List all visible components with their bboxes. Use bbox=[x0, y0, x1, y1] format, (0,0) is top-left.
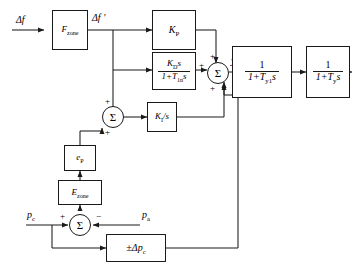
pressure-error-block[interactable]: eP bbox=[64, 145, 96, 171]
integral-gain-block[interactable]: KI/s bbox=[147, 102, 177, 132]
main-summing-junction[interactable]: Σ bbox=[207, 62, 229, 84]
bottom-sum-sign-minus: − bbox=[96, 212, 101, 221]
pc-signal-label: pc bbox=[27, 210, 35, 223]
e-zone-block-label: Ezone bbox=[71, 187, 88, 199]
proportional-gain-label: KP bbox=[169, 24, 179, 37]
block-diagram-canvas: Δf Δf ′ yPID y pc pa Fzone KP KDs 1+T1ns bbox=[0, 0, 355, 275]
mid-sum-sign-bottom: + bbox=[105, 128, 110, 137]
first-lag-transfer-function: 1 1+Ty1s bbox=[245, 60, 279, 85]
f-zone-block-label: Fzone bbox=[61, 24, 78, 36]
derivative-block[interactable]: KDs 1+T1ns bbox=[152, 52, 196, 90]
second-lag-block[interactable]: 1 1+Tys bbox=[306, 46, 350, 98]
proportional-gain-block[interactable]: KP bbox=[152, 10, 196, 50]
pressure-error-label: eP bbox=[76, 152, 83, 164]
integral-gain-label: KI/s bbox=[155, 111, 169, 123]
input-signal-label: Δf bbox=[16, 15, 25, 25]
derivative-denominator: 1+T1ns bbox=[158, 72, 189, 84]
derivative-numerator: KDs bbox=[158, 59, 189, 72]
pressure-deviation-label: ±Δpc bbox=[126, 242, 145, 255]
second-lag-numerator: 1 bbox=[313, 60, 344, 72]
mid-sum-glyph: Σ bbox=[110, 112, 116, 123]
main-sum-glyph: Σ bbox=[215, 68, 221, 79]
pa-signal-label: pa bbox=[142, 210, 150, 223]
bottom-sum-glyph: Σ bbox=[77, 220, 83, 231]
derivative-transfer-function: KDs 1+T1ns bbox=[158, 59, 189, 83]
mid-sum-sign-top: + bbox=[105, 97, 110, 106]
df-prime-label: Δf ′ bbox=[92, 13, 105, 23]
first-lag-block[interactable]: 1 1+Ty1s bbox=[232, 46, 292, 98]
main-sum-sign-left: + bbox=[199, 61, 204, 70]
first-lag-denominator: 1+Ty1s bbox=[245, 72, 279, 85]
main-sum-sign-top: + bbox=[210, 52, 215, 61]
pressure-deviation-block[interactable]: ±Δpc bbox=[106, 234, 166, 262]
integral-input-summing-junction[interactable]: Σ bbox=[102, 106, 124, 128]
second-lag-denominator: 1+Tys bbox=[313, 72, 344, 85]
f-zone-block[interactable]: Fzone bbox=[52, 10, 88, 50]
bottom-sum-sign-plus: + bbox=[60, 212, 65, 221]
main-sum-sign-bottom: + bbox=[210, 84, 215, 93]
e-zone-block[interactable]: Ezone bbox=[58, 180, 102, 205]
pressure-summing-junction[interactable]: Σ bbox=[69, 214, 91, 236]
second-lag-transfer-function: 1 1+Tys bbox=[313, 60, 344, 85]
first-lag-numerator: 1 bbox=[245, 60, 279, 72]
